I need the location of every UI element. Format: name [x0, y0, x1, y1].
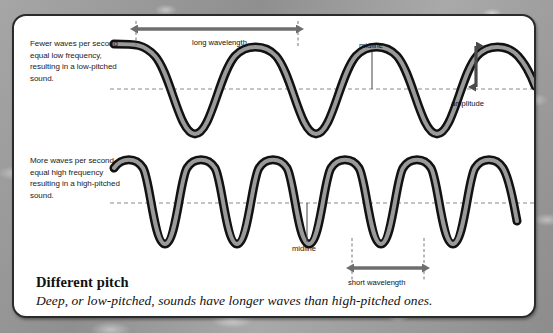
caption-subtitle: Deep, or low-pitched, sounds have longer…: [36, 293, 506, 309]
caption-title: Different pitch: [36, 274, 506, 291]
low-frequency-wave-outline: [114, 44, 535, 134]
label-long-wavelength: long wavelength: [192, 38, 247, 47]
caption: Different pitch Deep, or low-pitched, so…: [36, 274, 506, 309]
label-midline-bottom: midline: [292, 244, 316, 253]
high-frequency-description: More waves per second equal high frequen…: [30, 155, 122, 201]
label-amplitude: amplitude: [451, 99, 484, 108]
figure-card: Fewer waves per second equal low frequen…: [12, 14, 536, 318]
figure-background: Fewer waves per second equal low frequen…: [0, 0, 553, 333]
label-midline-top: midline: [359, 41, 383, 50]
low-frequency-description: Fewer waves per second equal low frequen…: [30, 38, 122, 84]
